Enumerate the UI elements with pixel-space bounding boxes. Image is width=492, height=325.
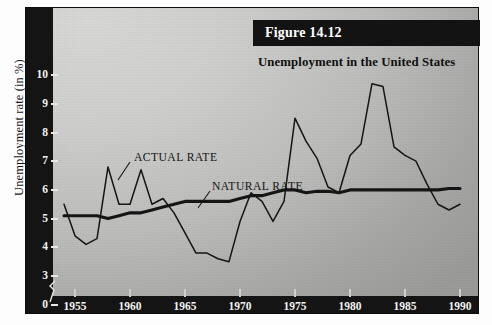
chart-plate: Figure 14.12 Unemployment in the United … bbox=[26, 8, 478, 313]
annotation-natural-rate: NATURAL RATE bbox=[212, 180, 303, 193]
leader-line-natural-rate bbox=[198, 191, 210, 208]
figure-plate: Unemployment rate (in %) Figure 14.12 Un… bbox=[0, 0, 492, 325]
y-axis-title: Unemployment rate (in %) bbox=[12, 13, 27, 243]
leader-line-actual-rate bbox=[118, 162, 130, 180]
data-lines bbox=[26, 8, 478, 313]
annotation-actual-rate: ACTUAL RATE bbox=[134, 151, 217, 164]
